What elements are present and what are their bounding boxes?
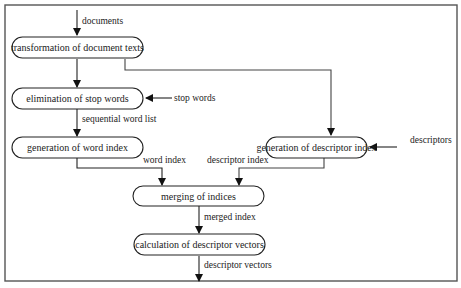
node-merging-of-indices: merging of indices — [133, 186, 264, 206]
node-label: elimination of stop words — [26, 93, 129, 104]
edge-label-merged-index: merged index — [204, 212, 256, 222]
edge-label-stop-words: stop words — [174, 93, 216, 103]
node-generation-of-descriptor-index: generation of descriptor index — [256, 137, 376, 158]
flowchart-canvas: documents stop words sequential word lis… — [0, 0, 461, 288]
node-generation-of-word-index: generation of word index — [12, 137, 143, 158]
node-elimination-of-stop-words: elimination of stop words — [12, 88, 143, 109]
node-label: calculation of descriptor vectors — [135, 239, 264, 250]
node-label: merging of indices — [161, 191, 236, 202]
node-label: generation of word index — [27, 142, 128, 153]
edge-label-descriptor-index: descriptor index — [207, 155, 269, 165]
edge-label-sequential-word-list: sequential word list — [82, 114, 157, 124]
flowchart-diagram: documents stop words sequential word lis… — [0, 0, 461, 288]
node-label: generation of descriptor index — [256, 142, 376, 153]
edge-label-descriptor-vectors: descriptor vectors — [204, 260, 272, 270]
node-transformation-of-document-texts: transformation of document texts — [11, 37, 144, 58]
node-calculation-of-descriptor-vectors: calculation of descriptor vectors — [134, 234, 265, 255]
node-label: transformation of document texts — [11, 42, 144, 53]
edge-label-word-index: word index — [143, 155, 186, 165]
edge-label-documents: documents — [82, 16, 123, 26]
edge-label-descriptors: descriptors — [410, 135, 452, 145]
